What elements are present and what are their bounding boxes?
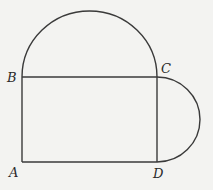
semicircle-on-bc xyxy=(22,11,157,77)
geometry-diagram: B C A D xyxy=(0,0,213,190)
label-c: C xyxy=(161,61,171,76)
label-a: A xyxy=(8,165,18,180)
label-b: B xyxy=(6,70,17,85)
label-d: D xyxy=(152,166,164,181)
rectangle-abcd xyxy=(22,77,157,162)
semicircle-on-cd xyxy=(157,77,200,162)
